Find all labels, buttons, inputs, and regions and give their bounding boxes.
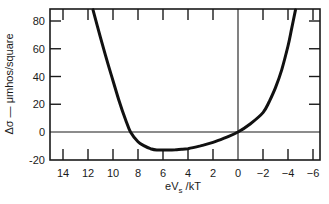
x-tick-label: 2	[210, 167, 216, 179]
y-axis-ticks	[50, 21, 320, 104]
y-tick-label: 20	[33, 98, 45, 110]
data-curve	[93, 10, 296, 150]
chart: 14121086420−2−4−6 -20020406080 eVs /kT Δ…	[0, 0, 329, 204]
plot-frame	[50, 9, 320, 160]
y-tick-label: 0	[39, 126, 45, 138]
x-tick-label: 0	[235, 167, 241, 179]
y-tick-labels: -20020406080	[29, 15, 45, 166]
x-tick-label: 4	[185, 167, 191, 179]
x-axis-title: eVs /kT	[165, 180, 201, 195]
y-tick-label: 40	[33, 71, 45, 83]
x-tick-label: 10	[107, 167, 119, 179]
x-tick-label: 14	[57, 167, 69, 179]
x-tick-label: 8	[135, 167, 141, 179]
x-tick-label: −6	[307, 167, 320, 179]
reference-lines	[50, 9, 320, 160]
y-axis-title: Δσ — μmhos/square	[3, 33, 15, 134]
x-tick-label: −2	[257, 167, 270, 179]
y-tick-label: -20	[29, 154, 45, 166]
y-tick-label: 60	[33, 43, 45, 55]
x-tick-label: −4	[282, 167, 295, 179]
y-tick-label: 80	[33, 15, 45, 27]
x-tick-labels: 14121086420−2−4−6	[57, 167, 319, 179]
x-tick-label: 12	[82, 167, 94, 179]
x-tick-label: 6	[160, 167, 166, 179]
